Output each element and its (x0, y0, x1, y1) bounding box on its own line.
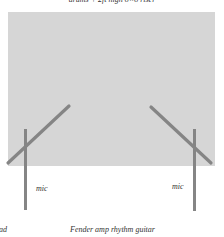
mic-stand-right (151, 107, 211, 211)
fender-amp-label: Fender amp rhythm guitar (70, 225, 155, 234)
mic-stand-left (8, 106, 69, 210)
mic-stand-left-boom (8, 106, 69, 163)
mic-stand-right-boom (151, 107, 211, 163)
mic-right-label: mic (172, 182, 184, 191)
mic-stands (0, 0, 224, 237)
bottom-left-label: ad (0, 225, 7, 234)
mic-left-label: mic (36, 184, 48, 193)
